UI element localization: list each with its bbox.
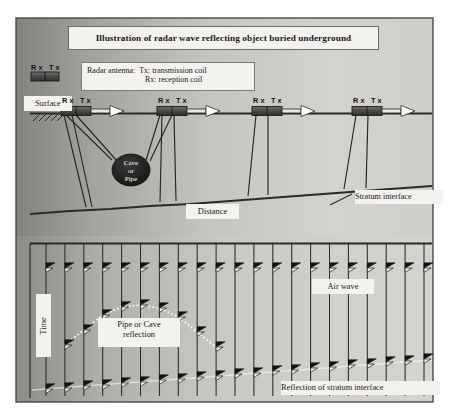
object-label-line2: or [128,167,135,175]
legend-heading: Radar antenna: [87,66,135,75]
antenna-1-arrow-shaft [91,109,110,113]
pipe-cave-line1: Pipe or Cave [98,320,180,330]
legend-antenna-icon [31,72,59,81]
antenna-3-arrow-shaft [282,109,301,113]
antenna-1-tag: Rx Tx [62,96,93,105]
legend-antenna-tag: Rx Tx [31,63,62,72]
gpr-illustration-figure: Cave or Pipe [0,0,449,418]
legend-row-tx: Radar antenna: Tx: transmission coil [87,66,254,75]
air-wave-label: Air wave [312,279,374,294]
legend-tx-text: Tx: transmission coil [139,66,207,75]
antenna-2-arrow-shaft [187,109,206,113]
antenna-4-tag: Rx Tx [353,96,384,105]
antenna-3-tag: Rx Tx [253,96,284,105]
figure-title: Illustration of radar wave reflecting ob… [68,26,379,50]
pipe-cave-reflection-label: Pipe or Cave reflection [98,318,180,347]
time-axis-text: Time [39,317,49,334]
legend-rx-text: Rx: reception coil [87,75,254,84]
object-label-line3: Pipe [125,175,137,183]
time-axis-label: Time [36,294,51,357]
pipe-cave-line2: reflection [98,330,180,340]
antenna-4-arrow-shaft [382,109,401,113]
stratum-interface-label: Stratum interface [355,190,443,204]
object-label-line1: Cave [124,159,138,167]
antenna-2-tag: Rx Tx [158,96,189,105]
legend-box: Radar antenna: Tx: transmission coil Rx:… [81,62,255,91]
stratum-reflection-label: Reflection of stratum interface [281,381,440,395]
distance-label: Distance [186,204,239,219]
